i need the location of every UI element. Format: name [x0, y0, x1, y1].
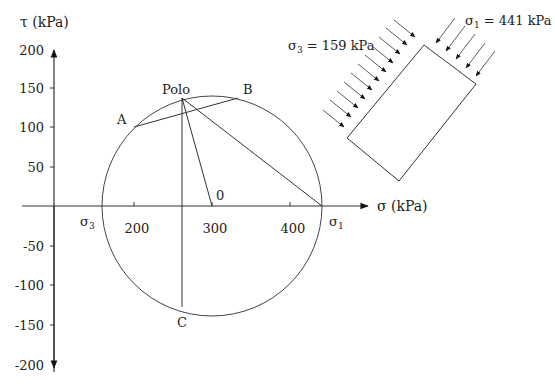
- x-tick: 200: [125, 221, 150, 236]
- sigma3-label: σ3: [80, 214, 95, 231]
- stress-element: [347, 45, 476, 181]
- y-tick: -50: [23, 239, 44, 254]
- point-b-label: B: [243, 82, 253, 97]
- x-axis-label: σ (kPa): [377, 198, 428, 214]
- x-tick: 300: [203, 221, 228, 236]
- y-tick: -200: [15, 358, 44, 373]
- y-tick: 50: [27, 160, 44, 175]
- point-c-label: C: [177, 315, 187, 330]
- y-tick: -150: [15, 318, 44, 333]
- sigma3-value: σ3 = 159 kPa: [288, 38, 375, 55]
- diagram-canvas: 200 150 100 50 -50 -100 -150 -200 200 30…: [0, 0, 555, 386]
- y-tick: 200: [19, 43, 44, 58]
- mohr-circle-diagram: 200 150 100 50 -50 -100 -150 -200 200 30…: [0, 0, 555, 386]
- sigma1-label: σ1: [329, 214, 344, 231]
- origin-label: 0: [216, 188, 224, 203]
- y-tick: 150: [19, 81, 44, 96]
- y-tick: -100: [15, 278, 44, 293]
- sigma1-value: σ1 = 441 kPa: [465, 13, 552, 30]
- point-a-label: A: [116, 112, 127, 127]
- y-tick: 100: [19, 120, 44, 135]
- x-tick: 400: [281, 221, 306, 236]
- pole-label: Polo: [162, 82, 190, 97]
- y-axis-label: τ (kPa): [20, 14, 69, 30]
